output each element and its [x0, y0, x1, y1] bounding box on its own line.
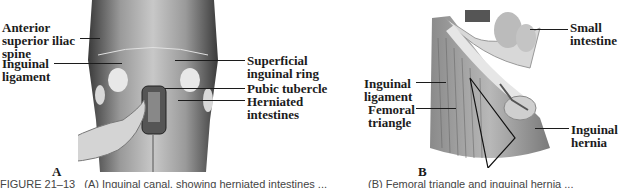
caption-figure-number: FIGURE 21–13	[0, 178, 75, 188]
leader-line-asis	[80, 38, 100, 39]
label-small-intestine: Small intestine	[570, 21, 617, 47]
label-inguinal-ligament-a: Inguinal ligament	[2, 57, 50, 83]
label-inguinal-hernia: Inguinal hernia	[571, 123, 618, 149]
panel-a-illustration	[78, 0, 228, 172]
caption-part-a: (A) Inguinal canal, showing herniated in…	[84, 178, 327, 188]
leader-line-inguinal-hernia	[535, 128, 569, 129]
leader-line-superficial-ring	[175, 60, 245, 61]
leader-line-inguinal-ligament-b	[416, 82, 446, 83]
leader-line-pubic-tubercle	[165, 88, 245, 89]
leader-line-femoral-triangle	[416, 108, 456, 109]
panel-b-illustration	[420, 8, 560, 168]
label-herniated-intestines: Herniated intestines	[247, 95, 303, 121]
label-femoral-triangle: Femoral triangle	[368, 103, 415, 129]
caption-part-b: (B) Femoral triangle and inguinal hernia…	[368, 178, 573, 188]
label-inguinal-ligament-b: Inguinal ligament	[364, 77, 412, 103]
label-superficial-inguinal-ring: Superficial inguinal ring	[247, 54, 319, 80]
leader-line-inguinal-ligament-a	[54, 63, 122, 64]
leader-line-small-intestine	[530, 29, 568, 30]
leader-line-herniated-intestines	[178, 100, 245, 101]
figure-caption: FIGURE 21–13 (A) Inguinal canal, showing…	[0, 178, 624, 188]
label-anterior-superior-iliac-spine: Anterior superior iliac spine	[2, 21, 75, 60]
